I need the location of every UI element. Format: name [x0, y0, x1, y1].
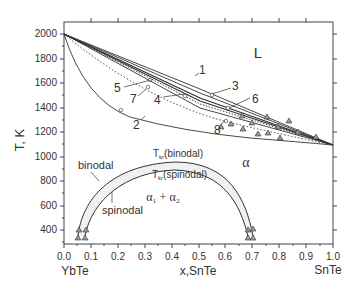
- x-tick-7: 0.7: [245, 251, 259, 262]
- curve-3-label: 3: [232, 79, 239, 93]
- binodal-label: binodal: [78, 159, 113, 171]
- y-tick-1400: 1400: [35, 102, 58, 113]
- curve-2-label: 2: [133, 118, 140, 132]
- y-tick-1000: 1000: [35, 151, 58, 162]
- left-compound-label: YbTe: [61, 264, 89, 278]
- y-tick-1800: 1800: [35, 53, 58, 64]
- x-tick-5: 0.5: [192, 251, 206, 262]
- x-tick-3: 0.3: [138, 251, 152, 262]
- curve-6-label: 6: [252, 92, 259, 106]
- curve-8-label: 8: [214, 123, 221, 137]
- tkr-binodal-label: Tkr(binodal): [153, 148, 203, 160]
- two-phase-region-label: α₁ + α₂: [146, 190, 180, 204]
- curve-4-label: 4: [154, 93, 161, 107]
- y-tick-1200: 1200: [35, 126, 58, 137]
- y-tick-2000: 2000: [35, 28, 58, 39]
- dome-markers: [75, 226, 256, 240]
- y-tick-800: 800: [40, 175, 57, 186]
- curve-1-label: 1: [199, 63, 206, 77]
- curve-7-label: 7: [130, 92, 137, 106]
- x-tick-10: 1.0: [326, 251, 340, 262]
- curves: [64, 34, 333, 145]
- curve-labels: 1 3 6 4 5 7 8 2: [114, 63, 259, 137]
- y-tick-1600: 1600: [35, 77, 58, 88]
- liquid-region-label: L: [254, 44, 262, 61]
- x-tick-1: 0.1: [84, 251, 98, 262]
- y-tick-labels: 2000 1800 1600 1400 1200 1000 800 600 40…: [35, 28, 58, 235]
- x-tick-0: 0.0: [57, 251, 71, 262]
- x-tick-2: 0.2: [111, 251, 125, 262]
- x-tick-labels: 0.0 0.1 0.2 0.3 0.4 0.5 0.6 0.7 0.8 0.9 …: [57, 251, 340, 262]
- binodal-arrow: [91, 172, 99, 181]
- x-tick-9: 0.9: [299, 251, 313, 262]
- curve-1: [64, 34, 333, 145]
- phase-diagram-chart: 2000 1800 1600 1400 1200 1000 800 600 40…: [0, 0, 355, 291]
- alpha-region-label: α: [242, 155, 250, 170]
- y-axis-label: T, K: [12, 128, 27, 151]
- right-compound-label: SnTe: [314, 263, 342, 277]
- x-axis-label: x,SnTe: [180, 264, 217, 278]
- x-tick-6: 0.6: [218, 251, 232, 262]
- x-tick-4: 0.4: [165, 251, 179, 262]
- curve-5-label: 5: [114, 81, 121, 95]
- y-tick-600: 600: [40, 200, 57, 211]
- spinodal-label: spinodal: [102, 204, 143, 216]
- y-tick-400: 400: [40, 224, 57, 235]
- x-tick-8: 0.8: [272, 251, 286, 262]
